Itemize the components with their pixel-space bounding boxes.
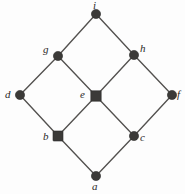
edge-b-e (58, 96, 96, 136)
node-label-d: d (5, 89, 11, 100)
node-d[interactable] (15, 90, 24, 99)
node-label-a: a (92, 181, 98, 192)
node-label-f: f (177, 89, 180, 100)
edge-h-i (96, 14, 134, 55)
edge-c-f (134, 95, 172, 136)
edge-g-i (58, 14, 96, 56)
node-label-c: c (140, 132, 145, 143)
node-g[interactable] (53, 51, 62, 60)
diagram-canvas (0, 0, 185, 194)
node-f[interactable] (167, 90, 176, 99)
node-layer (15, 9, 176, 180)
node-c[interactable] (129, 131, 138, 140)
edge-a-c (96, 136, 134, 176)
node-label-e: e (80, 89, 85, 100)
hasse-diagram-figure: ighdefbca (0, 0, 185, 194)
node-e[interactable] (91, 91, 101, 101)
edge-e-g (58, 56, 96, 96)
node-label-i: i (93, 0, 96, 11)
edge-e-h (96, 55, 134, 96)
edge-f-h (134, 55, 172, 95)
node-label-b: b (43, 131, 49, 142)
edge-c-e (96, 96, 134, 136)
node-label-g: g (43, 44, 49, 55)
node-h[interactable] (129, 50, 138, 59)
edge-b-d (20, 95, 58, 136)
edge-a-b (58, 136, 96, 176)
node-label-h: h (140, 43, 146, 54)
edge-d-g (20, 56, 58, 95)
node-b[interactable] (53, 131, 63, 141)
